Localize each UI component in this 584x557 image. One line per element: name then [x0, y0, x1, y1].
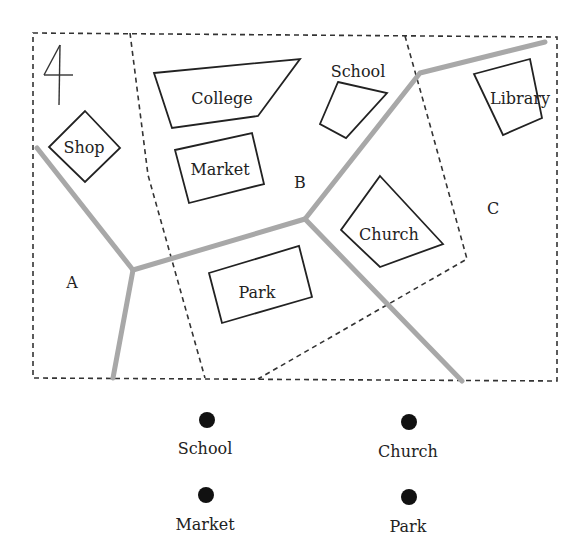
building-college-label: College — [191, 89, 252, 108]
legend-item-park: Park — [390, 489, 427, 536]
map-diagram: ShopCollegeMarketSchoolLibraryChurchPark… — [0, 0, 584, 557]
legend-dot-icon — [401, 489, 417, 505]
building-library: Library — [474, 59, 550, 135]
north-symbol-icon — [44, 45, 73, 105]
legend-label-market: Market — [175, 515, 235, 534]
building-park-label: Park — [239, 283, 276, 302]
building-park: Park — [209, 246, 312, 323]
legend-dot-icon — [198, 487, 214, 503]
legend-dot-icon — [401, 414, 417, 430]
building-school-label: School — [331, 62, 386, 81]
region-label-c: C — [487, 199, 499, 218]
building-church-outline — [341, 176, 443, 267]
building-shop: Shop — [49, 111, 120, 182]
building-shop-label: Shop — [63, 138, 104, 157]
legend-label-park: Park — [390, 517, 427, 536]
legend-dot-icon — [199, 412, 215, 428]
legend-label-school: School — [178, 439, 233, 458]
road-south — [113, 270, 133, 378]
building-church-label: Church — [359, 225, 419, 244]
building-market: Market — [175, 133, 264, 203]
region-label-b: B — [294, 173, 306, 192]
building-market-label: Market — [190, 160, 250, 179]
legend-item-church: Church — [378, 414, 438, 461]
legend-item-market: Market — [175, 487, 235, 534]
building-college: College — [154, 59, 300, 128]
building-church: Church — [341, 176, 443, 267]
building-library-label: Library — [490, 89, 550, 108]
region-label-a: A — [65, 273, 78, 292]
legend-item-school: School — [178, 412, 233, 458]
legend-label-church: Church — [378, 442, 438, 461]
